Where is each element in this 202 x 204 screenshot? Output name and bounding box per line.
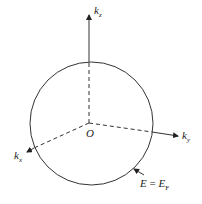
kx-label: kx bbox=[14, 149, 23, 164]
origin-label: O bbox=[86, 127, 94, 139]
fermi-sphere-diagram: kz ky kx O E = EF bbox=[0, 0, 202, 204]
kz-label: kz bbox=[94, 4, 102, 19]
kx-axis-dashed bbox=[34, 123, 89, 148]
ky-label: ky bbox=[182, 129, 191, 144]
fermi-surface-label: E = EF bbox=[139, 177, 169, 192]
ky-axis bbox=[152, 132, 178, 136]
kx-axis bbox=[27, 148, 34, 152]
surface-pointer-arrow bbox=[134, 169, 144, 175]
ky-axis-dashed bbox=[89, 123, 152, 132]
